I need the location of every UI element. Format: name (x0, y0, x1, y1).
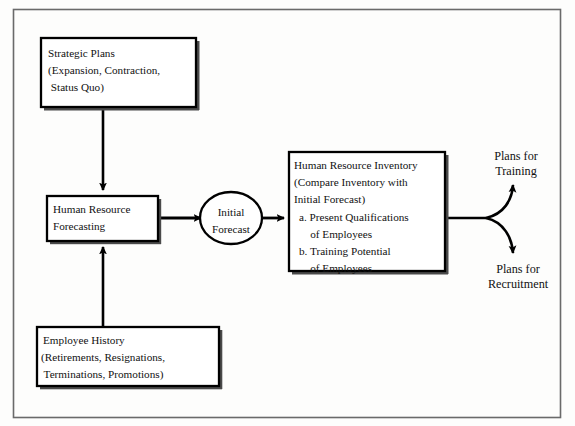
human-resource-forecasting-label-line2: Forecasting (53, 220, 158, 233)
human-resource-forecasting-label: Human Resource (53, 203, 158, 216)
connector-inventory-to-training (486, 185, 513, 218)
human-resource-inventory-label-line2: (Compare Inventory with (294, 176, 444, 189)
employee-history-label: Employee History (43, 334, 219, 347)
initial-forecast-label: Initial (188, 206, 274, 219)
human-resource-inventory-label-line5: of Employees (299, 228, 447, 241)
diagram-canvas: Strategic Plans (Expansion, Contraction,… (0, 0, 575, 426)
strategic-plans-label-line3: Status Quo) (48, 81, 196, 94)
human-resource-inventory-label-line7: of Employees (299, 262, 447, 275)
strategic-plans-label-line2: (Expansion, Contraction, (48, 64, 198, 77)
employee-history-label-line2: (Retirements, Resignations, (41, 351, 221, 364)
human-resource-inventory-label-line6: b. Training Potential (299, 245, 447, 258)
plans-for-recruitment-label: Plans for (466, 262, 570, 277)
plans-for-recruitment-label-line2: Recruitment (466, 277, 570, 292)
plans-for-training-label: Plans for (470, 149, 562, 164)
plans-for-training-label-line2: Training (470, 164, 562, 179)
human-resource-inventory-label-line3: Initial Forecast) (294, 193, 444, 206)
initial-forecast-label-line2: Forecast (188, 223, 274, 236)
human-resource-inventory-label-line4: a. Present Qualifications (299, 211, 447, 224)
connector-inventory-to-recruitment (486, 218, 513, 253)
employee-history-label-line3: Terminations, Promotions) (41, 368, 221, 381)
strategic-plans-label: Strategic Plans (48, 47, 196, 60)
human-resource-inventory-label: Human Resource Inventory (294, 159, 444, 172)
